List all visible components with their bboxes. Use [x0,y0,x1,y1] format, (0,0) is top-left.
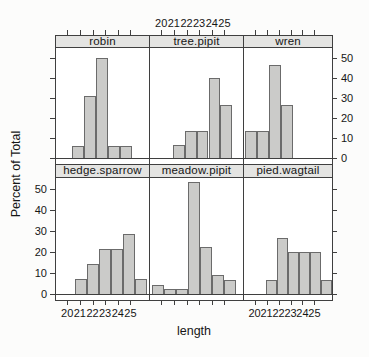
histogram-bar [224,280,236,294]
histogram-bar [197,131,209,158]
y-tick [50,158,55,159]
zero-line [56,158,149,159]
x-tick [314,300,315,305]
histogram-bar [99,249,111,294]
histogram-bar [96,58,108,158]
y-tick-label: 40 [341,72,365,84]
y-tick [50,210,55,211]
x-tick [80,300,81,305]
zero-line [150,294,243,295]
x-tick [130,300,131,305]
y-tick [50,98,55,99]
histogram-bar [257,131,269,158]
histogram-bar [212,275,224,294]
histogram-bar [266,280,277,294]
histogram-bar [72,146,84,159]
x-tick [279,30,280,35]
histogram-bar [135,279,147,294]
x-tick [105,30,106,35]
histogram-bar [310,252,321,294]
histogram-bar [188,182,200,294]
histogram-bar [185,131,197,158]
y-tick [50,252,55,253]
x-tick [80,30,81,35]
y-tick [332,273,337,274]
y-tick [332,158,337,159]
y-tick-label: 0 [23,288,47,300]
histogram-bar [75,279,87,294]
y-tick [50,189,55,190]
x-tick [130,30,131,35]
strip-hedge.sparrow: hedge.sparrow [55,164,150,178]
y-tick [50,58,55,59]
histogram-bar [299,252,310,294]
y-tick-label: 50 [341,52,365,64]
strip-label-meadow.pipit: meadow.pipit [162,165,232,177]
y-tick [332,118,337,119]
histogram-bar [84,96,96,159]
x-tick [105,300,106,305]
x-tick [302,30,303,35]
x-tick [161,30,162,35]
y-axis-title: Percent of Total [9,104,23,244]
histogram-bar [220,105,232,158]
y-tick-label: 40 [23,204,47,216]
x-tick [255,30,256,35]
x-tick [174,30,175,35]
histogram-bar [123,234,135,294]
zero-line [150,158,243,159]
zero-line [244,294,332,295]
y-tick-label: 30 [341,92,365,104]
x-tick [267,300,268,305]
x-tick [174,300,175,305]
x-tick [224,30,225,35]
x-tick [291,30,292,35]
x-tick [118,300,119,305]
histogram-bar [269,65,281,158]
y-tick [332,294,337,295]
x-tick [93,300,94,305]
histogram-bar [281,105,293,158]
x-tick [212,300,213,305]
histogram-bar [209,78,221,158]
x-tick [93,30,94,35]
histogram-bar [321,280,332,294]
strip-label-robin: robin [89,36,116,48]
x-tick [199,30,200,35]
y-tick [332,78,337,79]
x-tick [161,300,162,305]
y-tick [332,189,337,190]
x-tick-label: 25 [118,307,142,319]
histogram-bar [111,249,123,294]
x-tick [118,30,119,35]
histogram-bar [277,238,288,294]
x-tick [67,30,68,35]
histogram-bar [87,264,99,294]
y-tick [50,78,55,79]
histogram-bar [173,145,185,158]
strip-label-tree.pipit: tree.pipit [173,36,219,48]
histogram-bar [120,146,132,159]
y-tick-label: 20 [341,112,365,124]
x-tick [255,300,256,305]
histogram-bar [245,131,257,158]
x-tick [279,300,280,305]
strip-meadow.pipit: meadow.pipit [149,164,244,178]
strip-label-hedge.sparrow: hedge.sparrow [63,165,142,177]
y-tick [332,252,337,253]
y-tick [50,231,55,232]
histogram-bar [200,247,212,294]
strip-label-pied.wagtail: pied.wagtail [256,165,319,177]
y-tick [50,118,55,119]
x-tick [212,30,213,35]
y-tick-label: 20 [23,246,47,258]
x-tick [267,30,268,35]
x-tick [199,300,200,305]
histogram-bar [108,146,120,159]
y-tick [332,98,337,99]
y-tick [50,294,55,295]
histogram-bar [152,285,164,294]
x-tick [224,300,225,305]
zero-line [244,158,332,159]
x-tick-label: 25 [302,307,326,319]
